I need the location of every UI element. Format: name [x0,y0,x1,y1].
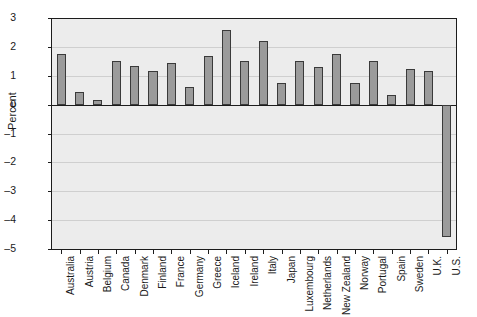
y-tick-mark [48,220,52,221]
y-tick-label: –2 [0,155,16,167]
y-tick-label: –5 [0,242,16,254]
x-tick-label: Ireland [249,256,260,287]
x-tick-label: Sweden [414,256,425,292]
bar [204,56,213,105]
bar [130,66,139,105]
x-tick-mark [337,250,338,254]
x-tick-mark [171,250,172,254]
bar [424,71,433,104]
x-tick-label: Norway [359,256,370,290]
bar [185,87,194,104]
x-tick-mark [135,250,136,254]
gridline [52,220,456,221]
x-tick-mark [428,250,429,254]
bar [148,71,157,104]
y-tick-mark [48,76,52,77]
x-tick-mark [282,250,283,254]
y-tick-label: 3 [0,11,16,23]
y-tick-label: –3 [0,184,16,196]
chart-figure: Percent 3210–1–2–3–4–5 AustraliaAustriaB… [0,0,477,317]
y-tick-label: –1 [0,127,16,139]
y-tick-label: 1 [0,69,16,81]
x-tick-label: France [175,256,186,287]
x-tick-mark [208,250,209,254]
y-tick-mark [48,162,52,163]
bar [350,83,359,105]
y-tick-mark [48,191,52,192]
bar [222,30,231,105]
x-tick-mark [447,250,448,254]
x-tick-mark [116,250,117,254]
bar [112,61,121,104]
x-tick-mark [80,250,81,254]
y-tick-mark [48,18,52,19]
x-tick-mark [190,250,191,254]
y-tick-mark [48,134,52,135]
x-tick-mark [226,250,227,254]
bar [387,95,396,105]
bar [93,100,102,104]
x-tick-mark [410,250,411,254]
x-tick-mark [61,250,62,254]
bar [314,67,323,105]
x-tick-mark [318,250,319,254]
x-tick-label: Finland [157,256,168,289]
x-axis-line [51,249,457,250]
x-tick-mark [263,250,264,254]
y-tick-label: –4 [0,213,16,225]
y-tick-label: 0 [0,98,16,110]
x-tick-mark [300,250,301,254]
bar [57,54,66,105]
x-tick-label: Greece [212,256,223,289]
gridline [52,134,456,135]
x-tick-label: Denmark [139,256,150,297]
x-tick-label: Netherlands [322,256,333,310]
x-tick-mark [245,250,246,254]
x-tick-label: Spain [396,256,407,282]
bar [259,41,268,105]
x-tick-mark [373,250,374,254]
bar [406,69,415,105]
y-tick-label: 2 [0,40,16,52]
plot-area [52,18,456,249]
bar [75,92,84,105]
y-tick-mark [48,47,52,48]
bar [295,61,304,104]
y-tick-mark [48,249,52,250]
bar [369,61,378,104]
x-tick-mark [355,250,356,254]
gridline [52,191,456,192]
x-tick-label: Japan [286,256,297,283]
bar [277,83,286,105]
zero-baseline [52,105,456,107]
y-tick-mark [48,105,52,106]
x-tick-label: Canada [120,256,131,291]
bar [442,105,451,238]
bar [332,54,341,105]
x-tick-label: Austria [84,256,95,287]
x-tick-label: Luxembourg [304,256,315,312]
x-tick-mark [153,250,154,254]
x-tick-label: Italy [267,256,278,274]
x-tick-label: Germany [194,256,205,297]
x-tick-mark [98,250,99,254]
x-tick-label: Portugal [377,256,388,293]
x-tick-label: Australia [65,256,76,295]
x-tick-label: U.K. [432,256,443,275]
bar [167,63,176,105]
gridline [52,47,456,48]
x-tick-label: U.S. [451,256,462,275]
bar [240,61,249,104]
x-tick-label: New Zealand [341,256,352,315]
plot-top-border [51,18,457,19]
gridline [52,162,456,163]
x-tick-mark [392,250,393,254]
x-tick-label: Iceland [230,256,241,288]
x-tick-label: Belgium [102,256,113,292]
plot-right-border [456,18,457,250]
